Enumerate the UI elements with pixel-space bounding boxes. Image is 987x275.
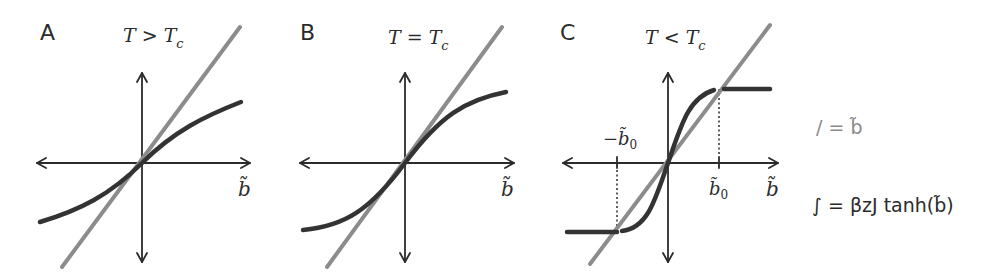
panel-c: C T < Tc −b̃0 b̃0 b̃ xyxy=(560,20,779,264)
panel-label-b: B xyxy=(300,20,315,45)
tanh-curve-a xyxy=(40,102,241,222)
neg-root-label: −b̃0 xyxy=(603,127,637,152)
legend-tanh-curve: ∫ = βzJ tanh(b̃) xyxy=(812,194,954,217)
legend: / = b̃ ∫ = βzJ tanh(b̃) xyxy=(812,116,954,217)
pos-root-label: b̃0 xyxy=(709,177,728,202)
panel-title-b: T = Tc xyxy=(388,26,449,53)
panel-title-a: T > Tc xyxy=(123,24,184,51)
x-axis-label-b: b̃ xyxy=(501,175,514,201)
panel-b: B T = Tc b̃ xyxy=(300,20,514,267)
legend-identity-line: / = b̃ xyxy=(816,116,862,138)
x-axis-label-a: b̃ xyxy=(238,175,251,201)
panel-label-a: A xyxy=(40,20,55,45)
x-axis-label-c: b̃ xyxy=(766,175,779,201)
mean-field-diagram: A T > Tc b̃ B T = Tc b̃ C T < Tc xyxy=(0,0,987,275)
panel-label-c: C xyxy=(560,20,575,45)
panel-title-c: T < Tc xyxy=(645,26,706,53)
axes-a xyxy=(37,73,250,262)
identity-line-a xyxy=(62,27,240,267)
panel-a: A T > Tc b̃ xyxy=(37,20,251,267)
identity-line-b xyxy=(327,27,502,267)
axes-b xyxy=(300,73,514,262)
